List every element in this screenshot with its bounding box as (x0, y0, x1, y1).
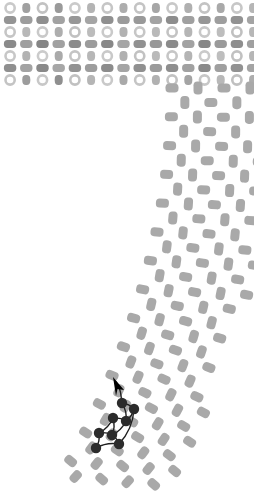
tail-capsule (240, 169, 249, 182)
trajectory-node (91, 443, 101, 453)
head-bar (53, 16, 65, 24)
head-bar (182, 16, 194, 24)
tail-capsule (197, 185, 210, 195)
head-bar (69, 64, 81, 72)
tail-capsule (235, 199, 245, 213)
head-oval (120, 75, 128, 85)
tail-capsule (243, 140, 252, 153)
head-bar (166, 64, 178, 72)
head-oval (217, 51, 225, 61)
head-bar (101, 64, 113, 72)
head-bar (215, 16, 227, 24)
tail-capsule (245, 111, 254, 124)
tail-capsule (217, 113, 230, 122)
trajectory-node (129, 404, 139, 414)
head-bar (231, 64, 243, 72)
head-oval (217, 27, 225, 37)
tail-capsule (177, 154, 186, 167)
tail-capsule (231, 125, 240, 138)
head-bar (198, 64, 210, 72)
head-oval (217, 3, 225, 13)
tail-capsule (203, 127, 216, 136)
trajectory-node (117, 398, 127, 408)
head-bar (85, 64, 97, 72)
head-bar (134, 64, 146, 72)
tail-capsule (218, 84, 231, 93)
head-oval (152, 51, 160, 61)
head-bar (150, 40, 162, 48)
head-bar (231, 16, 243, 24)
head-bar (69, 16, 81, 24)
tail-capsule (215, 142, 228, 151)
tail-capsule (193, 110, 202, 123)
head-oval (87, 3, 95, 13)
tail-capsule (212, 171, 225, 180)
head-bar (36, 16, 48, 24)
tail-capsule (202, 229, 216, 239)
head-oval (152, 27, 160, 37)
tail-capsule (180, 96, 189, 109)
head-bar (117, 64, 129, 72)
head-bar (4, 16, 16, 24)
tail-capsule (220, 213, 230, 227)
head-bar (198, 16, 210, 24)
head-oval (120, 3, 128, 13)
tail-capsule (208, 200, 222, 210)
head-bar (36, 40, 48, 48)
head-bar (69, 40, 81, 48)
head-oval (152, 3, 160, 13)
head-bar (247, 64, 254, 72)
tail-capsule (173, 182, 183, 195)
head-oval (184, 3, 192, 13)
head-bar (150, 16, 162, 24)
trajectory-node (114, 439, 124, 449)
trajectory-node (94, 428, 104, 438)
trajectory-node (107, 430, 117, 440)
head-oval (120, 27, 128, 37)
tail-capsule (225, 184, 235, 197)
tail-capsule (229, 155, 238, 168)
head-bar (247, 16, 254, 24)
tail-capsule (179, 125, 188, 138)
head-bar (134, 40, 146, 48)
head-bar (36, 64, 48, 72)
head-oval (87, 27, 95, 37)
tail-capsule (150, 227, 164, 237)
head-bar (20, 64, 32, 72)
head-oval (152, 75, 160, 85)
tail-capsule (232, 96, 241, 109)
tail-capsule (246, 82, 255, 95)
head-bar (215, 64, 227, 72)
head-oval (184, 27, 192, 37)
pattern-scene (0, 0, 254, 494)
head-oval (55, 75, 63, 85)
head-bar (53, 40, 65, 48)
head-bar (53, 64, 65, 72)
trajectory-node (108, 413, 118, 423)
head-bar (20, 16, 32, 24)
tail-capsule (188, 168, 197, 181)
head-bar (85, 16, 97, 24)
head-bar (117, 40, 129, 48)
head-oval (22, 3, 30, 13)
tail-capsule (204, 98, 217, 107)
head-bar (150, 64, 162, 72)
head-bar (117, 16, 129, 24)
tail-capsule (194, 82, 203, 95)
head-bar (4, 64, 16, 72)
head-oval (184, 75, 192, 85)
head-oval (87, 51, 95, 61)
head-oval (87, 75, 95, 85)
tail-capsule (201, 156, 214, 165)
head-bar (20, 40, 32, 48)
head-bar (4, 40, 16, 48)
head-oval (22, 75, 30, 85)
tail-capsule (178, 226, 188, 240)
head-oval (22, 27, 30, 37)
head-oval (55, 27, 63, 37)
head-bar (215, 40, 227, 48)
head-bar (247, 40, 254, 48)
head-bar (182, 40, 194, 48)
tail-capsule (192, 214, 206, 224)
tail-capsule (168, 211, 178, 225)
